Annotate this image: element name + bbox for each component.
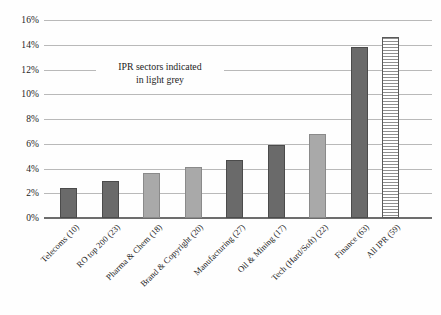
y-axis-tick-label: 16% xyxy=(1,15,39,25)
bar[interactable] xyxy=(60,188,77,218)
bar-slot xyxy=(173,20,215,218)
y-axis-tick-label: 6% xyxy=(1,139,39,149)
bar[interactable] xyxy=(143,173,160,218)
bar[interactable] xyxy=(351,47,368,218)
x-axis-tick-label: Telecoms (10) xyxy=(38,222,80,264)
chart-annotation: IPR sectors indicated in light grey xyxy=(96,60,224,88)
bar-slot xyxy=(131,20,173,218)
y-axis-tick-label: 4% xyxy=(1,164,39,174)
bar[interactable] xyxy=(382,37,399,218)
y-axis-tick-label: 0% xyxy=(1,213,39,223)
bar[interactable] xyxy=(185,167,202,218)
y-axis-tick-label: 8% xyxy=(1,114,39,124)
bar-slot xyxy=(369,20,411,218)
bar[interactable] xyxy=(102,181,119,218)
y-axis-tick-label: 10% xyxy=(1,89,39,99)
x-axis-tick-labels: Telecoms (10)RO top 200 (23)Pharma & Che… xyxy=(44,219,432,313)
y-axis-tick-label: 12% xyxy=(1,65,39,75)
bar-slot xyxy=(90,20,132,218)
bar-slot xyxy=(297,20,339,218)
bars-group xyxy=(44,20,432,218)
bar-chart: 0%2%4%6%8%10%12%14%16% IPR sectors indic… xyxy=(0,0,441,315)
bar-slot xyxy=(48,20,90,218)
bar-slot xyxy=(214,20,256,218)
bar[interactable] xyxy=(268,145,285,218)
annotation-line-2: in light grey xyxy=(99,74,221,87)
bar[interactable] xyxy=(226,160,243,218)
plot-area xyxy=(44,20,432,218)
annotation-line-1: IPR sectors indicated xyxy=(99,61,221,74)
bar-slot xyxy=(256,20,298,218)
bar[interactable] xyxy=(309,134,326,218)
y-axis-tick-label: 2% xyxy=(1,188,39,198)
y-axis-tick-label: 14% xyxy=(1,40,39,50)
